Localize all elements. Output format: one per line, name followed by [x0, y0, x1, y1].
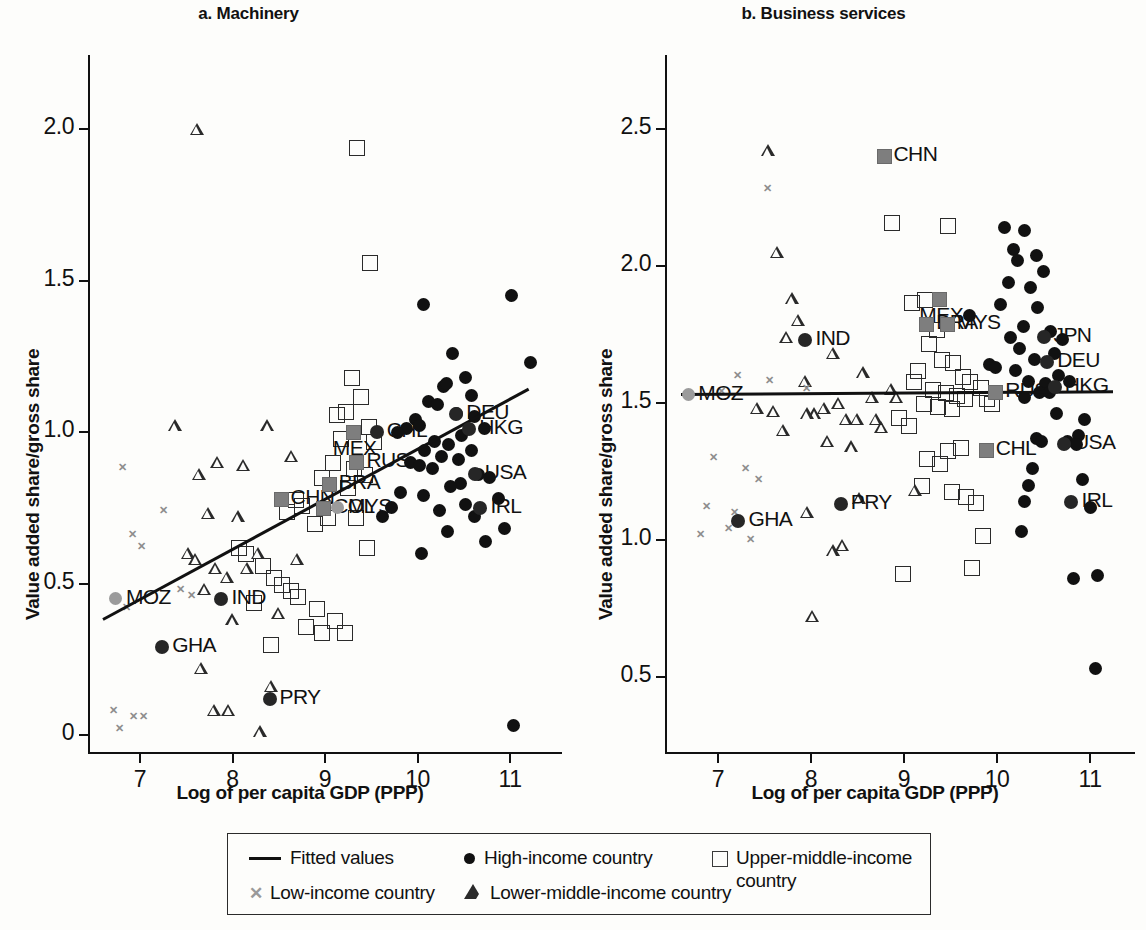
panel-business-services: b. Business services Value added share/g… — [573, 0, 1146, 800]
country-marker-gha — [731, 514, 745, 528]
country-label-hkg: HKG — [1065, 373, 1109, 397]
data-point — [1018, 224, 1031, 237]
legend-item-high-income: High-income country — [484, 847, 653, 869]
data-point — [895, 566, 911, 582]
data-point — [776, 424, 790, 436]
data-point: ✕ — [137, 541, 146, 552]
data-point — [264, 680, 278, 692]
y-axis-tick-label: 1.0 — [573, 524, 651, 551]
data-point — [1030, 249, 1043, 262]
data-point — [290, 553, 304, 565]
data-point — [805, 610, 819, 622]
y-axis-tick-label: 0 — [0, 719, 74, 746]
data-point: ✕ — [129, 711, 138, 722]
open-triangle-icon — [464, 884, 482, 899]
y-axis-tick — [79, 128, 88, 130]
data-point — [220, 571, 234, 583]
country-marker-deu — [449, 407, 463, 421]
x-axis-tick — [232, 754, 234, 763]
data-point — [263, 637, 279, 653]
data-point — [791, 314, 805, 326]
legend: Fitted values High-income country Upper-… — [227, 833, 931, 915]
y-axis-tick — [79, 734, 88, 736]
filled-circle-icon — [464, 853, 475, 864]
data-point: ✕ — [733, 370, 742, 381]
data-point — [856, 366, 870, 378]
data-point — [225, 613, 239, 625]
data-point — [435, 450, 448, 463]
data-point — [968, 495, 984, 511]
country-marker-col — [316, 501, 331, 516]
y-axis-tick-label: 1.5 — [0, 265, 74, 292]
data-point — [479, 535, 492, 548]
data-point — [901, 418, 917, 434]
country-marker-hkg — [462, 422, 476, 436]
data-point — [465, 444, 478, 457]
y-axis-tick — [656, 539, 665, 541]
data-point — [1018, 495, 1031, 508]
data-point — [337, 625, 353, 641]
data-point — [431, 398, 444, 411]
data-point — [314, 625, 330, 641]
data-point — [989, 361, 1002, 374]
data-point: ✕ — [115, 723, 124, 734]
country-label-ind: IND — [231, 585, 265, 609]
x-axis-tick-label: 11 — [480, 766, 540, 793]
y-axis-tick-label: 2.5 — [573, 113, 651, 140]
data-point: ✕ — [139, 711, 148, 722]
country-marker-jpn — [1037, 330, 1051, 344]
data-point: ✕ — [118, 462, 127, 473]
country-marker-deu — [1040, 355, 1054, 369]
data-point — [750, 402, 764, 414]
country-marker-moz — [682, 388, 695, 401]
data-point — [770, 246, 784, 258]
y-axis-tick-label: 2.0 — [573, 250, 651, 277]
x-axis-tick-label: 9 — [295, 766, 355, 793]
data-point — [251, 547, 265, 559]
country-marker-pry — [263, 692, 277, 706]
legend-item-lower-middle-income: Lower-middle-income country — [490, 882, 731, 904]
country-marker-irl — [1064, 495, 1078, 509]
x-axis-tick-label: 8 — [203, 766, 263, 793]
data-point — [1011, 254, 1024, 267]
country-marker-gha — [155, 640, 169, 654]
country-label-bra: BRA — [339, 470, 380, 494]
country-label-jpn: JPN — [1054, 323, 1092, 347]
data-point — [349, 140, 365, 156]
y-axis-tick — [79, 280, 88, 282]
data-point — [362, 255, 378, 271]
data-point — [1009, 364, 1022, 377]
data-point — [998, 221, 1011, 234]
country-label-irl: IRL — [490, 494, 521, 518]
x-axis-tick-label: 8 — [781, 766, 841, 793]
data-point — [192, 468, 206, 480]
x-axis-tick-label: 10 — [967, 766, 1027, 793]
data-point — [231, 510, 245, 522]
data-point — [1031, 301, 1044, 314]
data-point — [908, 484, 922, 496]
country-marker-bra — [919, 317, 934, 332]
country-label-gha: GHA — [172, 633, 216, 657]
y-axis-line — [665, 55, 667, 754]
data-point — [831, 397, 845, 409]
data-point: ✕ — [128, 529, 137, 540]
data-point — [188, 553, 202, 565]
x-axis-tick-label: 7 — [110, 766, 170, 793]
country-label-gha: GHA — [748, 507, 792, 531]
data-point — [394, 486, 407, 499]
data-point — [1026, 462, 1039, 475]
country-marker-moz — [109, 592, 122, 605]
panel-a-plot-area: 00.51.01.52.07891011✕✕✕✕✕✕✕✕✕✕✕MOZINDGHA… — [0, 0, 573, 800]
data-point — [459, 371, 472, 384]
data-point — [329, 407, 345, 423]
y-axis-tick — [79, 431, 88, 433]
open-square-icon — [712, 851, 728, 867]
data-point — [800, 407, 814, 419]
y-axis-line — [88, 55, 90, 754]
country-label-mys: MYS — [348, 494, 392, 518]
data-point: ✕ — [741, 463, 750, 474]
grey-x-icon: ✕ — [249, 885, 263, 902]
data-point — [785, 292, 799, 304]
data-point: ✕ — [187, 590, 196, 601]
data-point — [921, 336, 937, 352]
